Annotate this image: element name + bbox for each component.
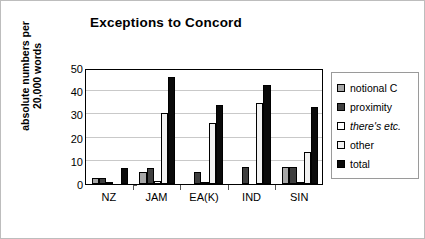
bar bbox=[263, 85, 270, 184]
legend-label: there's etc. bbox=[350, 120, 401, 132]
legend-item[interactable]: notional C bbox=[337, 78, 414, 97]
legend-label: notional C bbox=[350, 82, 397, 94]
x-tick-mark bbox=[133, 185, 134, 190]
legend-item[interactable]: there's etc. bbox=[337, 116, 414, 135]
bar bbox=[194, 172, 201, 184]
bar bbox=[311, 107, 318, 184]
bar bbox=[139, 172, 146, 184]
bar bbox=[282, 167, 289, 184]
y-tick-label: 0 bbox=[57, 180, 83, 190]
bar-group bbox=[86, 70, 134, 184]
legend-swatch-icon bbox=[337, 160, 345, 168]
y-tick-label: 10 bbox=[57, 157, 83, 167]
bar-group bbox=[134, 70, 182, 184]
bar bbox=[289, 167, 296, 184]
y-tick-label: 30 bbox=[57, 110, 83, 120]
x-tick-label: SIN bbox=[275, 191, 323, 203]
chart-figure: Exceptions to Concord absolute numbers p… bbox=[0, 0, 425, 239]
legend-label: proximity bbox=[350, 101, 392, 113]
bar bbox=[161, 113, 168, 184]
bar bbox=[106, 182, 113, 184]
x-tick-label: IND bbox=[228, 191, 276, 203]
x-axis-tick-labels: NZJAMEA(K)INDSIN bbox=[85, 191, 323, 209]
x-tick-mark bbox=[275, 185, 276, 190]
x-tick-mark bbox=[180, 185, 181, 190]
bar bbox=[168, 77, 175, 184]
bar-group bbox=[229, 70, 277, 184]
legend-label: total bbox=[350, 158, 370, 170]
bar bbox=[216, 105, 223, 184]
bar bbox=[297, 182, 304, 184]
legend-item[interactable]: total bbox=[337, 154, 414, 173]
bar bbox=[121, 168, 128, 184]
x-tick-label: JAM bbox=[133, 191, 181, 203]
x-tick-mark bbox=[228, 185, 229, 190]
y-axis-title-text: absolute numbers per 20,000 words bbox=[19, 21, 43, 131]
legend-item[interactable]: proximity bbox=[337, 97, 414, 116]
y-tick-label: 20 bbox=[57, 134, 83, 144]
bar bbox=[147, 168, 154, 184]
y-tick-label: 40 bbox=[57, 87, 83, 97]
bar bbox=[201, 182, 208, 184]
bar bbox=[154, 181, 161, 184]
x-tick-label: EA(K) bbox=[180, 191, 228, 203]
bar bbox=[99, 178, 106, 184]
legend-swatch-icon bbox=[337, 141, 345, 149]
bar bbox=[242, 167, 249, 184]
plot-area bbox=[85, 69, 323, 185]
y-tick-mark bbox=[133, 185, 137, 186]
legend-swatch-icon bbox=[337, 122, 345, 130]
y-tick-label: 50 bbox=[57, 64, 83, 74]
bar bbox=[256, 103, 263, 184]
legend-swatch-icon bbox=[337, 84, 345, 92]
bar-group bbox=[276, 70, 324, 184]
x-tick-label: NZ bbox=[85, 191, 133, 203]
legend-swatch-icon bbox=[337, 103, 345, 111]
legend-item[interactable]: other bbox=[337, 135, 414, 154]
bar-group bbox=[181, 70, 229, 184]
bar bbox=[209, 123, 216, 184]
y-axis-title: absolute numbers per 20,000 words bbox=[11, 6, 51, 146]
bar bbox=[92, 178, 99, 184]
chart-legend: notional Cproximitythere's etc.othertota… bbox=[331, 72, 419, 179]
y-axis-tick-labels: 01020304050 bbox=[53, 1, 83, 239]
bar bbox=[304, 152, 311, 184]
legend-label: other bbox=[350, 139, 374, 151]
